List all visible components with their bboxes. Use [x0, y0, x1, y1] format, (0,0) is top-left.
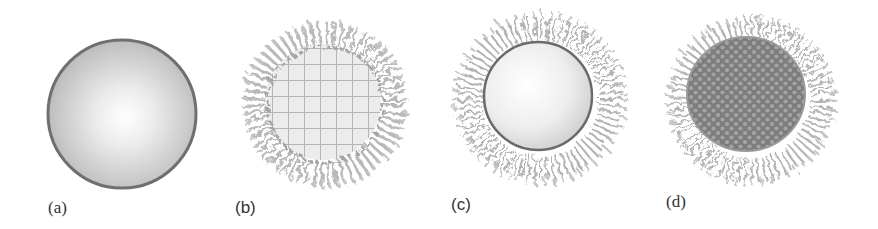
nanoparticle-figure [0, 0, 878, 229]
panel-label-c: (c) [451, 195, 471, 215]
panel-label-d: (d) [666, 192, 686, 212]
panel-label-a: (a) [48, 198, 67, 218]
panel-d-dark-core-brush [667, 16, 831, 180]
panel-b-grid-core-brush [243, 22, 403, 182]
panel-a-bare-particle [48, 40, 196, 188]
panel-label-b: (b) [235, 198, 256, 218]
panel-c-smooth-core-brush [454, 12, 622, 180]
smooth-core-c [484, 42, 592, 150]
